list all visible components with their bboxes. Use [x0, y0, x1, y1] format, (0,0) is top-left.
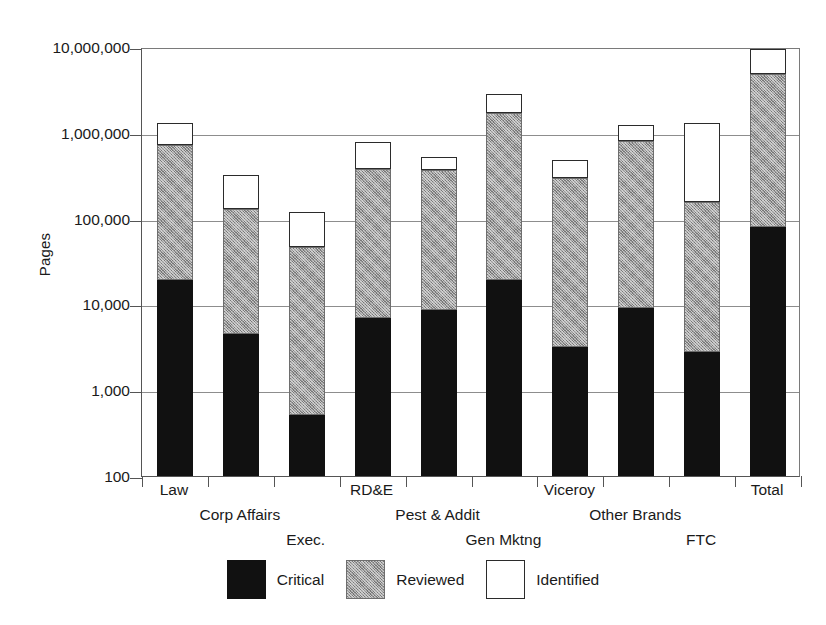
bar-segment-reviewed[interactable] [552, 178, 588, 347]
y-tick-mark [130, 135, 142, 136]
legend-swatch-identified [486, 560, 525, 599]
x-tick-label: Pest & Addit [395, 506, 479, 524]
bar-segment-reviewed[interactable] [421, 170, 457, 311]
bar-stack[interactable] [157, 47, 193, 476]
legend-swatch-reviewed [346, 560, 385, 599]
bar-segment-critical[interactable] [289, 415, 325, 476]
y-tick-mark [130, 392, 142, 393]
x-tick-label: Gen Mktng [466, 531, 542, 549]
bar-segment-critical[interactable] [684, 352, 720, 476]
bar-chart: Pages 10,000,0001,000,000100,00010,0001,… [0, 0, 826, 625]
y-tick-label: 100 [12, 469, 130, 485]
plot-area [141, 48, 800, 477]
bar-segment-reviewed[interactable] [289, 247, 325, 415]
bar-segment-reviewed[interactable] [750, 74, 786, 227]
bar-segment-reviewed[interactable] [618, 141, 654, 308]
bar-segment-identified[interactable] [618, 125, 654, 142]
bar-segment-critical[interactable] [552, 347, 588, 476]
y-tick-label: 10,000 [12, 297, 130, 313]
bar-segment-identified[interactable] [750, 49, 786, 74]
bar-segment-identified[interactable] [355, 142, 391, 169]
bar-segment-critical[interactable] [223, 334, 259, 476]
bar-segment-critical[interactable] [618, 308, 654, 476]
legend-item[interactable]: Reviewed [346, 560, 464, 599]
y-tick-label: 1,000,000 [12, 126, 130, 142]
legend-label: Critical [277, 571, 324, 589]
y-tick-mark [130, 221, 142, 222]
legend-label: Identified [536, 571, 599, 589]
bar-segment-critical[interactable] [486, 280, 522, 476]
y-tick-mark [130, 49, 142, 50]
bar-segment-critical[interactable] [157, 280, 193, 476]
x-tick-label: Viceroy [544, 481, 595, 499]
bar-segment-reviewed[interactable] [355, 169, 391, 318]
legend-label: Reviewed [396, 571, 464, 589]
x-tick-label: Other Brands [589, 506, 681, 524]
x-tick-mark [801, 476, 802, 487]
chart-legend: CriticalReviewedIdentified [0, 560, 826, 599]
y-axis-tick-labels: 10,000,0001,000,000100,00010,0001,000100 [0, 0, 130, 625]
bar-segment-identified[interactable] [421, 157, 457, 170]
bar-stack[interactable] [289, 47, 325, 476]
bar-segment-identified[interactable] [486, 94, 522, 113]
legend-item[interactable]: Critical [227, 560, 324, 599]
bar-segment-identified[interactable] [684, 123, 720, 202]
x-tick-label: Exec. [286, 531, 325, 549]
bar-stack[interactable] [223, 47, 259, 476]
x-tick-label: Total [751, 481, 784, 499]
bar-segment-reviewed[interactable] [486, 113, 522, 280]
bar-segment-critical[interactable] [750, 227, 786, 476]
bar-segment-reviewed[interactable] [684, 202, 720, 352]
bar-stack[interactable] [421, 47, 457, 476]
y-tick-label: 1,000 [12, 383, 130, 399]
bar-segment-critical[interactable] [421, 310, 457, 476]
bar-stack[interactable] [684, 47, 720, 476]
y-tick-label: 100,000 [12, 212, 130, 228]
bar-segment-identified[interactable] [289, 212, 325, 247]
bar-stack[interactable] [355, 47, 391, 476]
x-tick-label: Law [160, 481, 188, 499]
bar-stack[interactable] [750, 47, 786, 476]
x-tick-label: RD&E [350, 481, 393, 499]
legend-swatch-critical [227, 560, 266, 599]
bar-segment-reviewed[interactable] [223, 209, 259, 334]
bar-segment-critical[interactable] [355, 318, 391, 476]
bar-stack[interactable] [486, 47, 522, 476]
legend-item[interactable]: Identified [486, 560, 599, 599]
x-tick-label: FTC [686, 531, 716, 549]
bar-segment-identified[interactable] [157, 123, 193, 145]
bar-stack[interactable] [618, 47, 654, 476]
y-tick-label: 10,000,000 [12, 40, 130, 56]
bar-segment-reviewed[interactable] [157, 145, 193, 280]
bar-segment-identified[interactable] [223, 175, 259, 209]
x-axis-tick-labels: LawCorp AffairsExec.RD&EPest & AdditGen … [141, 479, 800, 549]
x-tick-label: Corp Affairs [199, 506, 280, 524]
y-tick-mark [130, 306, 142, 307]
bar-stack[interactable] [552, 47, 588, 476]
bar-segment-identified[interactable] [552, 160, 588, 178]
